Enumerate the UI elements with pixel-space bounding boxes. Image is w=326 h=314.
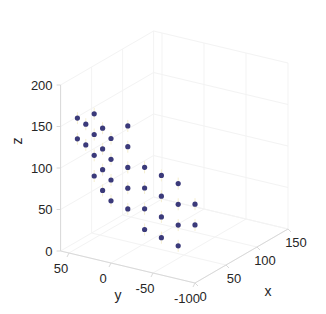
grid-line-z: [154, 114, 288, 146]
y-axis-label: y: [115, 287, 122, 303]
z-tick-label: 200: [31, 78, 53, 93]
data-point: [125, 144, 130, 149]
x-tick-label: 100: [254, 253, 276, 268]
y-tick: [109, 263, 111, 267]
data-point: [108, 157, 113, 162]
data-point: [100, 167, 105, 172]
data-point: [75, 136, 80, 141]
grid-line-z: [154, 156, 288, 188]
data-point: [176, 181, 181, 186]
y-tick-label: 0: [99, 271, 106, 286]
grid-line-z: [61, 73, 154, 127]
data-point: [176, 243, 181, 248]
points: [75, 111, 198, 248]
data-point: [92, 173, 97, 178]
x-axis-label: x: [265, 283, 272, 299]
z-axis-label: z: [9, 138, 25, 145]
data-point: [83, 122, 88, 127]
grid-line-z: [61, 156, 154, 210]
data-point: [125, 206, 130, 211]
y-tick: [151, 273, 153, 277]
data-point: [192, 202, 197, 207]
data-point: [125, 123, 130, 128]
y-tick-label: 50: [54, 261, 68, 276]
x-tick: [195, 283, 198, 286]
data-point: [100, 146, 105, 151]
data-point: [108, 177, 113, 182]
y-tick-label: -50: [136, 281, 155, 296]
data-point: [142, 206, 147, 211]
data-point: [159, 194, 164, 199]
grid-line-z: [61, 197, 154, 251]
data-point: [108, 136, 113, 141]
data-point: [142, 185, 147, 190]
data-point: [108, 198, 113, 203]
scatter3d-chart: 050100150500-50-100050100150200xyz: [0, 0, 326, 314]
x-tick: [288, 229, 291, 232]
data-point: [92, 111, 97, 116]
grid-line-x: [92, 233, 226, 265]
data-point: [142, 227, 147, 232]
grid-line-z: [154, 31, 288, 63]
y-axis-line: [61, 251, 195, 283]
x-tick: [226, 265, 229, 268]
grid-line-z: [61, 31, 154, 85]
data-point: [142, 165, 147, 170]
data-point: [159, 214, 164, 219]
x-tick-label: 150: [285, 235, 307, 250]
data-point: [100, 126, 105, 131]
x-tick-label: 0: [199, 289, 206, 304]
data-point: [100, 188, 105, 193]
z-tick-label: 100: [31, 161, 53, 176]
z-tick-label: 150: [31, 119, 53, 134]
data-point: [75, 116, 80, 121]
data-point: [192, 222, 197, 227]
stems: [77, 108, 195, 252]
grid-line-y: [111, 209, 204, 263]
data-point: [92, 132, 97, 137]
x-tick: [257, 247, 260, 250]
y-tick: [67, 253, 69, 257]
grid-line-y: [153, 219, 246, 273]
data-point: [176, 202, 181, 207]
data-point: [159, 173, 164, 178]
data-point: [92, 153, 97, 158]
data-point: [83, 142, 88, 147]
grid-line-y: [69, 199, 162, 253]
tick-labels: 050100150500-50-100050100150200xyz: [9, 78, 307, 307]
y-tick: [193, 283, 195, 287]
data-point: [125, 165, 130, 170]
z-tick-label: 0: [45, 244, 52, 259]
grid-line-z: [154, 73, 288, 105]
data-point: [159, 235, 164, 240]
grid-line-z: [154, 197, 288, 229]
x-tick-label: 50: [227, 271, 241, 286]
y-tick-label: -100: [174, 291, 200, 306]
data-point: [125, 186, 130, 191]
grid-line-z: [61, 114, 154, 168]
z-tick-label: 50: [38, 202, 52, 217]
data-point: [176, 223, 181, 228]
